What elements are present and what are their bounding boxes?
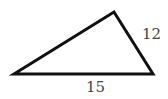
triangle-diagram: 12 15: [0, 0, 168, 99]
side-label-base: 15: [86, 78, 105, 96]
side-label-right: 12: [142, 25, 161, 43]
triangle-shape: [14, 12, 153, 74]
